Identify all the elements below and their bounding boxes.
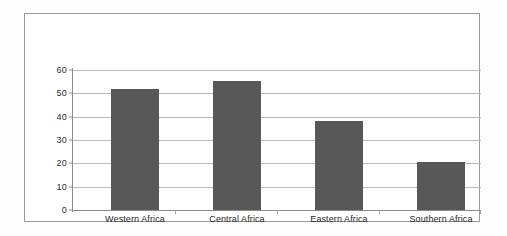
plot-area: 60 50 40 30 20 10 xyxy=(73,70,481,210)
bar-eastern-africa[interactable] xyxy=(315,121,363,210)
y-tick-label-30: 30 xyxy=(57,135,67,145)
y-tick-label-10: 10 xyxy=(57,182,67,192)
y-tick-label-0: 0 xyxy=(62,205,67,215)
bar-southern-africa[interactable] xyxy=(417,162,465,210)
category-separator-3 xyxy=(379,210,380,214)
page-background: 60 50 40 30 20 10 xyxy=(0,0,507,236)
x-label-central-africa: Central Africa xyxy=(209,214,264,224)
category-separator-1 xyxy=(175,210,176,214)
bars-layer xyxy=(73,70,481,210)
x-label-southern-africa: Southern Africa xyxy=(409,214,472,224)
y-tick-label-50: 50 xyxy=(57,88,67,98)
category-separator-2 xyxy=(277,210,278,214)
x-axis-labels: Western Africa Central Africa Eastern Af… xyxy=(73,214,481,232)
category-separator-4 xyxy=(480,210,481,214)
x-label-eastern-africa: Eastern Africa xyxy=(310,214,367,224)
y-tick-label-40: 40 xyxy=(57,112,67,122)
x-label-western-africa: Western Africa xyxy=(105,214,165,224)
bar-western-africa[interactable] xyxy=(111,89,159,210)
figure-frame: 60 50 40 30 20 10 xyxy=(24,13,480,222)
bar-central-africa[interactable] xyxy=(213,81,261,211)
y-tick-label-60: 60 xyxy=(57,65,67,75)
y-tick-label-20: 20 xyxy=(57,158,67,168)
